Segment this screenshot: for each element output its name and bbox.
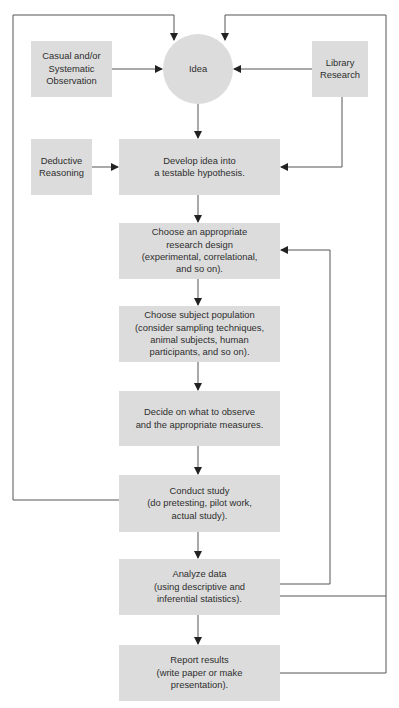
node-measures: Decide on what to observe and the approp… [119,391,280,446]
node-analyze-label: Analyze data (using descriptive and infe… [154,568,245,605]
node-hypothesis-label: Develop idea into a testable hypothesis. [154,155,245,180]
node-analyze: Analyze data (using descriptive and infe… [119,559,280,615]
node-deductive: Deductive Reasoning [31,139,92,195]
edge-analyze-design-loop [280,250,330,584]
node-library: Library Research [312,41,368,97]
node-idea-label: Idea [189,63,207,75]
node-report-label: Report results (write paper or make pres… [157,654,243,691]
node-population-label: Choose subject population (consider samp… [135,309,264,359]
node-population: Choose subject population (consider samp… [119,306,280,362]
edge-library-hypothesis [281,97,342,167]
node-conduct-label: Conduct study (do pretesting, pilot work… [147,485,252,522]
node-measures-label: Decide on what to observe and the approp… [136,406,264,431]
node-conduct: Conduct study (do pretesting, pilot work… [119,475,280,532]
node-idea: Idea [163,34,233,104]
node-observation-label: Casual and/or Systematic Observation [42,50,100,87]
node-library-label: Library Research [320,57,360,82]
node-hypothesis: Develop idea into a testable hypothesis. [119,139,280,195]
node-observation: Casual and/or Systematic Observation [31,41,112,97]
node-report: Report results (write paper or make pres… [119,645,280,701]
node-design: Choose an appropriate research design (e… [119,223,280,279]
node-deductive-label: Deductive Reasoning [39,155,84,180]
node-design-label: Choose an appropriate research design (e… [142,226,258,276]
